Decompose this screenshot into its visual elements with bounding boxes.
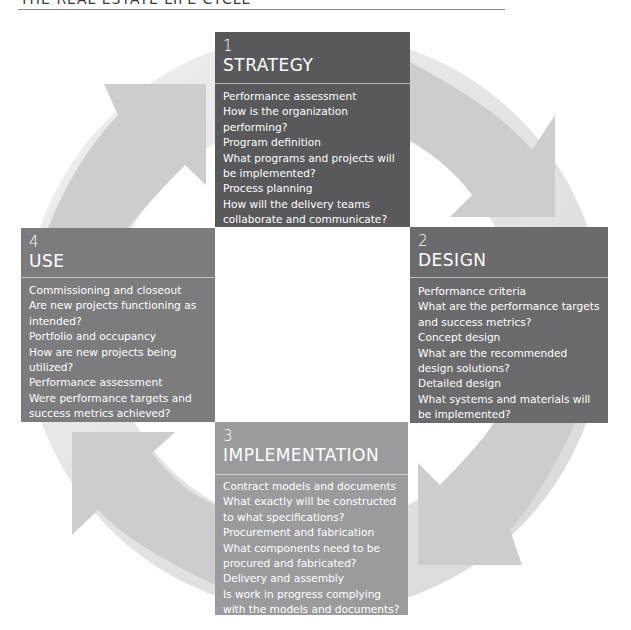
phase-item-list: Performance assessment How is the organi…	[223, 89, 404, 228]
phase-item-list: Performance criteria What are the perfor…	[418, 284, 602, 423]
list-item: Contract models and documents	[223, 479, 402, 494]
list-item: Is work in progress complying with the m…	[223, 587, 402, 618]
phase-title: STRATEGY	[223, 55, 402, 75]
list-item: Process planning	[223, 181, 404, 196]
phase-number: 3	[223, 428, 400, 445]
list-item: What programs and projects will be imple…	[223, 151, 404, 182]
list-item: Delivery and assembly	[223, 571, 402, 586]
phase-number: 1	[223, 38, 402, 55]
list-item: What are the performance targets and suc…	[418, 299, 602, 330]
list-item: What are the recommended design solution…	[418, 346, 602, 377]
list-item: Are new projects functioning as intended…	[29, 298, 209, 329]
phase-box-design: 2 DESIGN Performance criteria What are t…	[410, 227, 608, 423]
arrow-use-to-strategy-icon	[48, 84, 206, 228]
phase-item-list: Contract models and documents What exact…	[223, 479, 402, 618]
phase-title: USE	[29, 251, 207, 271]
phase-divider	[21, 277, 215, 278]
phase-box-use: 4 USE Commissioning and closeout Are new…	[21, 228, 215, 422]
list-item: Portfolio and occupancy	[29, 329, 209, 344]
list-item: Commissioning and closeout	[29, 283, 209, 298]
phase-divider	[215, 474, 408, 475]
list-item: How is the organization performing?	[223, 104, 404, 135]
phase-box-strategy: 1 STRATEGY Performance assessment How is…	[215, 32, 410, 227]
phase-number: 2	[418, 233, 600, 250]
list-item: Were performance targets and success met…	[29, 391, 209, 422]
list-item: Performance assessment	[29, 375, 209, 390]
phase-number: 4	[29, 234, 207, 251]
list-item: How will the delivery teams collaborate …	[223, 197, 404, 228]
list-item: Program definition	[223, 135, 404, 150]
arrow-implementation-to-use-icon	[72, 432, 215, 585]
phase-divider	[215, 83, 410, 84]
phase-title: DESIGN	[418, 250, 600, 270]
list-item: Procurement and fabrication	[223, 525, 402, 540]
phase-title: IMPLEMENTATION	[223, 445, 400, 465]
list-item: What components need to be procured and …	[223, 541, 402, 572]
phase-box-implementation: 3 IMPLEMENTATION Contract models and doc…	[215, 422, 408, 615]
list-item: Performance assessment	[223, 89, 404, 104]
list-item: What exactly will be constructed to what…	[223, 494, 402, 525]
phase-item-list: Commissioning and closeout Are new proje…	[29, 283, 209, 422]
arrow-design-to-implementation-icon	[418, 423, 575, 565]
phase-divider	[410, 277, 608, 278]
list-item: What systems and materials will be imple…	[418, 392, 602, 423]
list-item: Performance criteria	[418, 284, 602, 299]
list-item: Detailed design	[418, 376, 602, 391]
list-item: Concept design	[418, 330, 602, 345]
list-item: How are new projects being utilized?	[29, 345, 209, 376]
